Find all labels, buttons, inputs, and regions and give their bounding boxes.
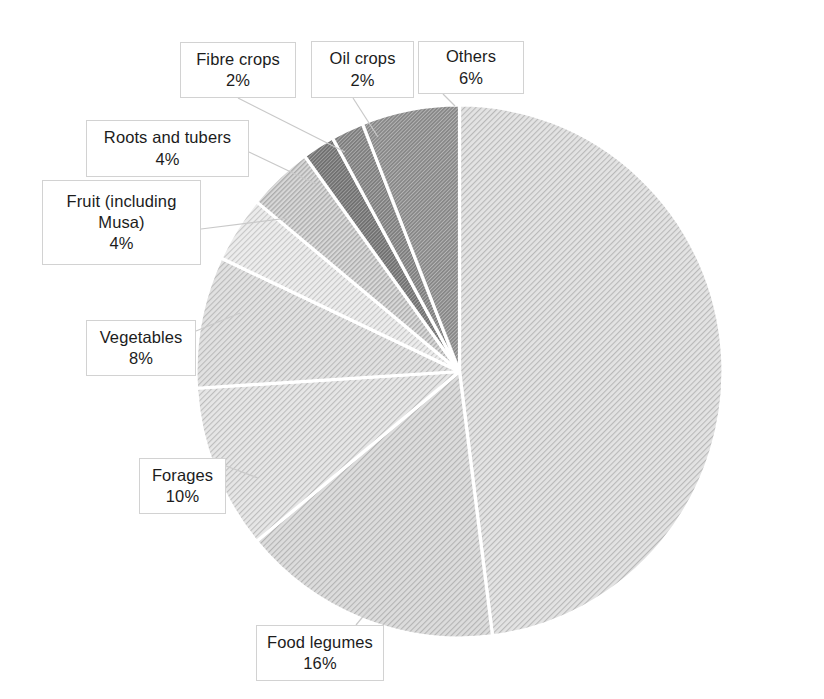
callout-oil-crops[interactable]: Oil crops2%: [311, 41, 414, 98]
callout-forages-value: 10%: [166, 486, 199, 507]
callout-others-name: Others: [446, 46, 496, 67]
callout-food-legumes[interactable]: Food legumes16%: [256, 625, 384, 681]
callout-forages[interactable]: Forages10%: [139, 458, 226, 514]
pie-chart-figure: Fibre crops2%Oil crops2%Others6%Roots an…: [0, 0, 824, 699]
pie-slice-cereals[interactable]: [460, 105, 724, 636]
callout-roots-and-tubers[interactable]: Roots and tubers4%: [86, 120, 249, 177]
callout-forages-name: Forages: [152, 465, 213, 486]
callout-fibre-crops-value: 2%: [226, 70, 250, 91]
callout-vegetables-value: 8%: [129, 348, 153, 369]
callout-others[interactable]: Others6%: [418, 41, 524, 94]
pie-slices-group: [196, 105, 723, 638]
callout-food-legumes-value: 16%: [303, 653, 336, 674]
callout-vegetables-name: Vegetables: [100, 327, 183, 348]
callout-fibre-crops[interactable]: Fibre crops2%: [180, 42, 296, 98]
callout-roots-and-tubers-value: 4%: [155, 149, 179, 170]
callout-oil-crops-value: 2%: [350, 70, 374, 91]
callout-oil-crops-name: Oil crops: [330, 48, 396, 69]
callout-fruit-including-musa[interactable]: Fruit (including Musa)4%: [42, 180, 201, 265]
callout-food-legumes-name: Food legumes: [267, 632, 373, 653]
callout-roots-and-tubers-name: Roots and tubers: [104, 127, 231, 148]
callout-others-value: 6%: [459, 68, 483, 89]
callout-fruit-including-musa-name: Fruit (including Musa): [50, 191, 193, 233]
callout-fruit-including-musa-value: 4%: [109, 233, 133, 254]
callout-fibre-crops-name: Fibre crops: [196, 49, 280, 70]
callout-vegetables[interactable]: Vegetables8%: [86, 320, 196, 376]
